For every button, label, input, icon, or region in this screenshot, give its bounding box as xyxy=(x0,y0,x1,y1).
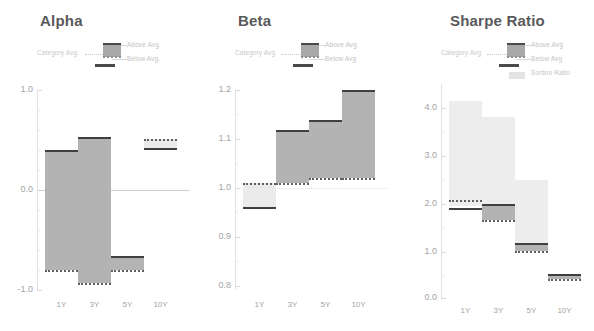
legend-label-category-avg: Category Avg xyxy=(441,49,481,56)
y-tick-minor xyxy=(235,163,238,164)
category-avg-marker xyxy=(449,200,482,202)
sortino-band xyxy=(482,117,515,206)
x-tick-label: 5Y xyxy=(515,306,548,315)
legend-leader-below xyxy=(112,59,127,60)
y-axis-line xyxy=(235,90,236,290)
y-tick-major xyxy=(441,204,446,205)
legend-swatch-sortino-ratio xyxy=(509,72,525,79)
chart-panel-beta: Beta Category Avg Above Avg Below Avg 1 xyxy=(198,0,396,331)
range-band xyxy=(309,122,342,178)
above-avg-marker xyxy=(78,137,111,139)
sortino-band xyxy=(449,101,482,206)
range-band xyxy=(243,183,276,208)
legend-label-category-avg: Category Avg. xyxy=(37,49,79,56)
x-tick-label: 10Y xyxy=(548,306,581,315)
y-tick-label: 1.1 xyxy=(198,133,231,143)
legend-label-sortino-ratio: Sortino Ratio xyxy=(531,69,570,76)
category-avg-marker xyxy=(515,251,548,253)
y-tick-minor xyxy=(37,110,40,111)
y-tick-label: 1.0 xyxy=(0,84,33,94)
y-tick-label: 1.2 xyxy=(198,84,231,94)
x-tick-label: 10Y xyxy=(144,300,177,309)
above-avg-marker xyxy=(342,90,375,92)
legend-leader-dotted xyxy=(487,54,507,55)
category-avg-marker xyxy=(276,183,309,185)
range-band xyxy=(276,132,309,183)
y-tick-label: 4.0 xyxy=(404,102,437,112)
above-avg-marker xyxy=(449,208,482,210)
y-tick-minor xyxy=(441,228,444,229)
page-title: Beta xyxy=(238,12,271,29)
y-tick-minor xyxy=(235,212,238,213)
legend-leader-dotted xyxy=(85,54,103,55)
y-tick-minor xyxy=(441,275,444,276)
legend-label-below-avg: Below Avg. xyxy=(127,55,160,62)
y-tick-major xyxy=(235,237,240,238)
legend-swatch-category-edge xyxy=(507,56,525,58)
x-tick-label: 1Y xyxy=(449,306,482,315)
legend-leader-below xyxy=(516,59,531,60)
y-axis-line xyxy=(441,84,442,298)
y-tick-minor xyxy=(235,114,238,115)
y-tick-major xyxy=(441,156,446,157)
y-tick-major xyxy=(235,139,240,140)
legend-swatch-category-edge xyxy=(301,56,319,58)
x-tick-label: 10Y xyxy=(342,300,375,309)
y-tick-label: 1.0 xyxy=(198,182,231,192)
above-avg-marker xyxy=(243,207,276,209)
y-tick-label: -1.0 xyxy=(0,284,33,294)
range-band xyxy=(45,152,78,270)
legend-swatch-above-avg-edge xyxy=(507,43,525,45)
above-avg-marker xyxy=(276,130,309,132)
x-tick-label: 1Y xyxy=(243,300,276,309)
y-tick-label: 1.0 xyxy=(404,246,437,256)
range-band xyxy=(342,92,375,178)
range-band xyxy=(111,258,144,270)
category-avg-marker xyxy=(45,270,78,272)
y-tick-minor xyxy=(235,261,238,262)
category-avg-marker xyxy=(342,178,375,180)
category-avg-marker xyxy=(111,270,144,272)
x-tick-label: 5Y xyxy=(111,300,144,309)
y-tick-minor xyxy=(37,130,40,131)
legend-label-above-avg: Above Avg. xyxy=(127,41,161,48)
y-tick-minor xyxy=(37,210,40,211)
x-tick-label: 5Y xyxy=(309,300,342,309)
y-tick-major xyxy=(235,90,240,91)
range-band xyxy=(482,206,515,220)
category-avg-marker xyxy=(548,279,581,281)
y-tick-minor xyxy=(37,270,40,271)
category-avg-marker xyxy=(243,183,276,185)
x-tick-label: 1Y xyxy=(45,300,78,309)
category-avg-marker xyxy=(144,139,177,141)
y-tick-major xyxy=(441,108,446,109)
y-tick-major xyxy=(235,286,240,287)
legend-dash-below-avg xyxy=(95,64,115,67)
chart-panel-row: Alpha Category Avg. Above Avg. Below Avg… xyxy=(0,0,594,331)
legend-dash-below-avg xyxy=(499,64,519,67)
x-tick-label: 3Y xyxy=(276,300,309,309)
legend-swatch-category-edge xyxy=(103,56,121,58)
category-avg-marker xyxy=(482,220,515,222)
legend-label-below-avg: Below Avg xyxy=(531,55,562,62)
chart-panel-alpha: Alpha Category Avg. Above Avg. Below Avg… xyxy=(0,0,198,331)
y-tick-label: 2.0 xyxy=(404,198,437,208)
y-tick-label: 3.0 xyxy=(404,150,437,160)
x-tick-label: 3Y xyxy=(482,306,515,315)
y-tick-major xyxy=(441,298,446,299)
y-tick-minor xyxy=(441,132,444,133)
above-avg-marker xyxy=(548,274,581,276)
legend-label-category-avg: Category Avg xyxy=(235,49,275,56)
range-band xyxy=(78,139,111,283)
above-avg-marker xyxy=(45,150,78,152)
y-tick-label: 0.8 xyxy=(198,280,231,290)
legend-label-above-avg: Above Avg xyxy=(531,41,563,48)
legend-dash-below-avg xyxy=(293,64,313,67)
legend-swatch-above-avg-edge xyxy=(103,43,121,45)
y-tick-label: 0.9 xyxy=(198,231,231,241)
y-tick-minor xyxy=(441,180,444,181)
page-title: Alpha xyxy=(40,12,83,29)
category-avg-marker xyxy=(309,178,342,180)
category-avg-marker xyxy=(78,283,111,285)
sortino-band xyxy=(515,180,548,246)
